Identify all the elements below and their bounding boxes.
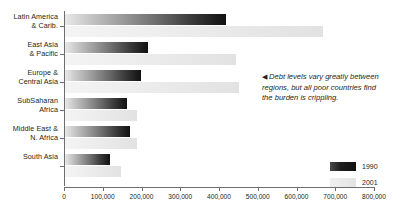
bar-2001-3 xyxy=(65,82,239,93)
region-label-5: Middle East &N. Africa xyxy=(0,125,58,142)
x-tick-6 xyxy=(258,187,259,191)
region-label-2: East Asia& Pacific xyxy=(0,41,58,58)
category-tick-3 xyxy=(60,82,64,83)
x-tick-label-3: 200,000 xyxy=(130,193,154,201)
region-label-6: South Asia xyxy=(0,153,58,162)
bar-2001-5 xyxy=(65,138,137,149)
legend-swatch-2001-icon xyxy=(330,178,356,187)
legend: 1990 2001 xyxy=(330,161,394,193)
x-tick-label-8: 700,000 xyxy=(323,193,347,201)
debt-by-region-bar-chart: Latin America& Carib.East Asia& PacificE… xyxy=(0,0,399,215)
x-tick-4 xyxy=(180,187,181,191)
annotation-text: Debt levels vary greatly between regions… xyxy=(262,72,379,102)
bar-2001-2 xyxy=(65,54,236,65)
bar-1990-5 xyxy=(65,126,130,137)
region-label-line2: Central Asia xyxy=(0,78,58,87)
region-label-line2: & Pacific xyxy=(0,50,58,59)
category-tick-5 xyxy=(60,138,64,139)
x-axis: 0100,000200,000300,000400,000500,000600,… xyxy=(64,187,374,188)
x-tick-label-2: 100,000 xyxy=(91,193,115,201)
category-axis-labels: Latin America& Carib.East Asia& PacificE… xyxy=(0,11,58,186)
category-tick-1 xyxy=(60,26,64,27)
region-label-3: Europe &Central Asia xyxy=(0,69,58,86)
x-tick-label-1: 0 xyxy=(62,193,66,201)
region-label-1: Latin America& Carib. xyxy=(0,13,58,30)
region-label-line2: N. Africa xyxy=(0,134,58,143)
legend-item-1990: 1990 xyxy=(330,161,394,172)
x-tick-label-5: 400,000 xyxy=(207,193,231,201)
x-tick-label-9: 800,000 xyxy=(362,193,386,201)
region-label-line2: & Carib. xyxy=(0,22,58,31)
category-tick-6 xyxy=(60,166,64,167)
legend-swatch-1990-icon xyxy=(330,162,356,171)
bar-2001-6 xyxy=(65,166,121,177)
chart-annotation: ◀Debt levels vary greatly between region… xyxy=(262,72,382,104)
legend-label-2001: 2001 xyxy=(362,179,378,186)
x-tick-2 xyxy=(103,187,104,191)
x-tick-label-6: 500,000 xyxy=(246,193,270,201)
x-tick-label-4: 300,000 xyxy=(168,193,192,201)
x-tick-7 xyxy=(297,187,298,191)
legend-label-1990: 1990 xyxy=(362,163,378,170)
region-label-line2: Africa xyxy=(0,106,58,115)
x-tick-5 xyxy=(219,187,220,191)
left-arrow-icon: ◀ xyxy=(262,73,267,80)
x-tick-1 xyxy=(64,187,65,191)
legend-item-2001: 2001 xyxy=(330,177,394,188)
bar-1990-1 xyxy=(65,14,226,25)
category-tick-4 xyxy=(60,110,64,111)
bar-1990-6 xyxy=(65,154,110,165)
region-label-line1: South Asia xyxy=(0,153,58,162)
category-tick-2 xyxy=(60,54,64,55)
bar-1990-3 xyxy=(65,70,141,81)
region-label-4: SubSaharanAfrica xyxy=(0,97,58,114)
bar-2001-4 xyxy=(65,110,137,121)
bar-1990-4 xyxy=(65,98,127,109)
x-tick-3 xyxy=(142,187,143,191)
x-tick-label-7: 600,000 xyxy=(285,193,309,201)
bar-1990-2 xyxy=(65,42,148,53)
bar-2001-1 xyxy=(65,26,323,37)
